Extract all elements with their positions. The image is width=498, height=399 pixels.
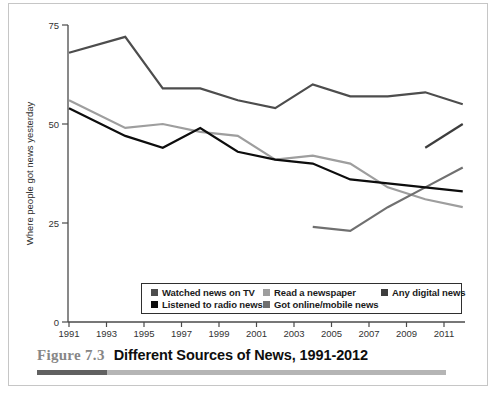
y-tick-label: 25 <box>48 218 59 229</box>
legend-label: Listened to radio news <box>162 299 263 310</box>
series-line <box>313 168 463 231</box>
x-tick-label: 1991 <box>58 328 79 339</box>
x-tick-label: 1993 <box>96 328 117 339</box>
legend-item: Read a newspaper <box>263 287 381 298</box>
legend-square-icon <box>263 289 270 296</box>
legend-square-icon <box>151 301 158 308</box>
caption-underline-bar <box>37 370 446 375</box>
legend-item: Listened to radio news <box>151 299 263 310</box>
series-line <box>425 124 463 148</box>
figure-title: Different Sources of News, 1991-2012 <box>114 347 368 363</box>
x-tick-label: 2009 <box>396 328 417 339</box>
legend-label: Read a newspaper <box>274 287 356 298</box>
y-tick-label: 50 <box>48 119 59 130</box>
legend-label: Any digital news <box>392 287 465 298</box>
x-tick-label: 1997 <box>171 328 192 339</box>
legend-square-icon <box>263 301 270 308</box>
legend-item: Any digital news <box>381 287 465 298</box>
legend-square-icon <box>381 289 388 296</box>
y-tick-label: 0 <box>54 317 59 328</box>
x-tick-label: 1999 <box>208 328 229 339</box>
caption-underline-dark-segment <box>37 370 107 375</box>
series-line <box>69 37 463 108</box>
y-tick-label: 75 <box>48 20 59 31</box>
x-tick-label: 2007 <box>358 328 379 339</box>
legend-label: Watched news on TV <box>162 287 255 298</box>
legend-square-icon <box>151 289 158 296</box>
x-tick-label: 2005 <box>321 328 342 339</box>
x-tick-label: 2003 <box>283 328 304 339</box>
x-tick-label: 2011 <box>434 328 454 339</box>
legend-label: Got online/mobile news <box>274 299 378 310</box>
legend-item: Watched news on TV <box>151 287 263 298</box>
y-axis-title: Where people got news yesterday <box>24 101 35 245</box>
figure-caption: Figure 7.3 Different Sources of News, 19… <box>37 347 449 364</box>
chart-legend: Watched news on TV Read a newspaper Any … <box>141 283 462 314</box>
legend-item: Got online/mobile news <box>263 299 381 310</box>
figure-label: Figure 7.3 <box>37 347 105 364</box>
series-line <box>69 108 463 191</box>
series-line <box>69 100 463 207</box>
x-tick-label: 1995 <box>133 328 154 339</box>
x-tick-label: 2001 <box>246 328 267 339</box>
